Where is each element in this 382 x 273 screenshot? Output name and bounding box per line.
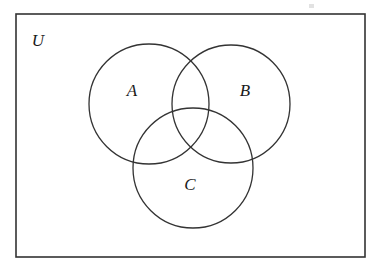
universal-set-label: U [32,31,46,50]
set-label-a: A [126,81,138,100]
set-label-b: B [240,81,251,100]
scan-speck-artifact [309,4,314,8]
set-circle-b [172,45,290,163]
set-circle-c [133,108,253,228]
set-label-c: C [184,175,196,194]
venn-diagram-canvas: U A B C [0,0,382,273]
universal-set-rectangle [16,14,365,257]
venn-diagram-figure: U A B C [0,0,382,273]
set-circle-a [89,44,209,164]
